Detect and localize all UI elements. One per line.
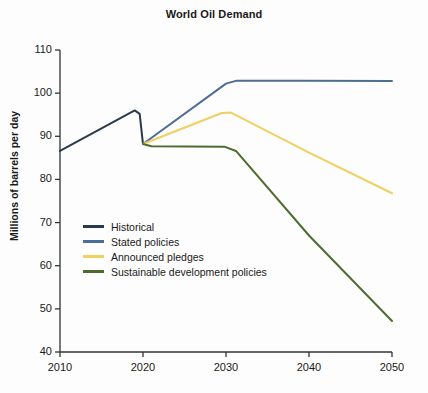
tick-marks [55, 50, 392, 357]
legend-label: Sustainable development policies [111, 266, 267, 278]
chart-legend: HistoricalStated policiesAnnounced pledg… [83, 219, 267, 279]
legend-color-swatch [83, 270, 104, 273]
series-line [143, 81, 392, 144]
plot-area [0, 0, 428, 393]
legend-color-swatch [83, 225, 104, 228]
legend-item[interactable]: Stated policies [83, 234, 267, 249]
series-line [60, 110, 143, 151]
legend-label: Stated policies [111, 236, 179, 248]
legend-item[interactable]: Sustainable development policies [83, 264, 267, 279]
axis-lines [60, 50, 392, 352]
legend-color-swatch [83, 255, 104, 258]
chart-container: World Oil Demand Millions of barrels per… [0, 0, 428, 393]
legend-color-swatch [83, 240, 104, 243]
legend-item[interactable]: Announced pledges [83, 249, 267, 264]
legend-item[interactable]: Historical [83, 219, 267, 234]
series-line [143, 113, 392, 194]
series-lines [60, 81, 392, 321]
legend-label: Announced pledges [111, 251, 204, 263]
legend-label: Historical [111, 221, 154, 233]
